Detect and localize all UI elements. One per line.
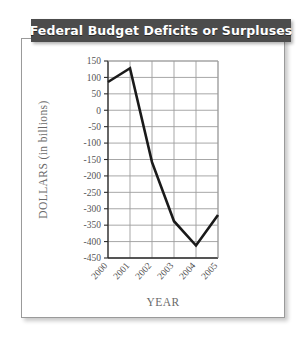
y-axis-tick-label: -100: [84, 138, 102, 148]
y-axis-tick-labels: 150100500-50-100-150-200-250-300-350-400…: [84, 56, 102, 263]
y-axis-tick-label: 50: [92, 89, 102, 99]
x-axis-tick-label: 2001: [111, 260, 131, 281]
x-axis-tick-label: 2003: [155, 260, 175, 281]
page-title: Federal Budget Deficits or Surpluses: [30, 23, 293, 38]
chart-canvas: 150100500-50-100-150-200-250-300-350-400…: [21, 38, 285, 318]
y-axis-tick-label: 0: [96, 106, 101, 116]
y-axis-tick-label: -300: [84, 204, 102, 214]
y-axis-tick-label: -400: [84, 237, 102, 247]
y-axis-tick-label: -450: [84, 253, 102, 263]
y-axis-tick-label: 150: [87, 56, 102, 66]
y-axis-tick-label: -250: [84, 188, 102, 198]
x-axis-title: YEAR: [147, 296, 180, 308]
y-axis-tick-label: -200: [84, 171, 102, 181]
x-axis-tick-label: 2000: [89, 260, 109, 281]
y-axis-tick-label: -350: [84, 220, 102, 230]
chart-title-bar: Federal Budget Deficits or Surpluses: [31, 19, 291, 42]
x-axis-tick-label: 2004: [177, 260, 197, 281]
chart-screenshot: Federal Budget Deficits or Surpluses 150…: [0, 0, 306, 351]
x-axis-tick-labels: 200020012002200320042005: [89, 260, 219, 281]
y-axis-tick-label: -50: [88, 122, 101, 132]
y-axis-tick-label: 100: [87, 73, 102, 83]
grid-horizontal-lines: [108, 61, 218, 258]
data-series-line: [108, 68, 218, 245]
line-chart: 150100500-50-100-150-200-250-300-350-400…: [21, 38, 285, 318]
y-axis-tick-label: -150: [84, 155, 102, 165]
x-axis-tick-label: 2005: [199, 260, 219, 281]
y-axis-title: DOLLARS (in billions): [37, 100, 50, 218]
x-axis-tick-label: 2002: [133, 260, 153, 281]
